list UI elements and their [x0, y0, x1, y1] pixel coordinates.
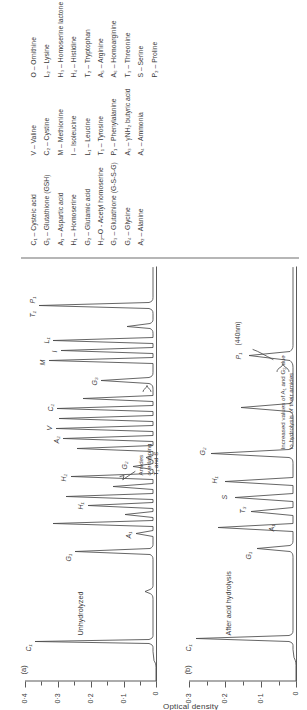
legend-column-3: O – Ornithine L₂ – Lysine H₃ – Homoserin… — [27, 1, 161, 77]
legend-item: T₂ – Tryptophan — [81, 1, 94, 77]
figure-stage: Optical density 0·4 0·3 0·2 0·1 0 (a) Un… — [13, 0, 307, 707]
legend-item: A₆ – Homoarginine — [107, 1, 120, 77]
legend-item: G₄ – Glycine — [121, 162, 134, 245]
legend-item: C₂ – Cystine — [40, 88, 53, 155]
legend-item: S – Serine — [134, 1, 147, 77]
legend-item: V – Valine — [27, 88, 40, 155]
legend-item: H₂–O - Acetyl homoserine — [94, 162, 107, 245]
legend-item: G₂ – Glutamic acid — [81, 162, 94, 245]
legend-item: I – Isoleucine — [67, 88, 80, 155]
legend-item: L₂ – Lysine — [40, 1, 53, 77]
legend-item: T₁ – Tyrosine — [94, 88, 107, 155]
legend-column-1: C₁ – Cysteic acid G₁ – Glutathione (GSH)… — [27, 162, 148, 245]
legend-item: A₂ – Alanine — [134, 162, 147, 245]
legend-column-2: V – Valine C₂ – Cystine M – Methionine I… — [27, 88, 148, 155]
legend-item: P₁ – Phenylalanine — [107, 88, 120, 155]
legend-item: M – Methionine — [54, 88, 67, 155]
chromatogram-figure: Optical density 0·4 0·3 0·2 0·1 0 (a) Un… — [13, 0, 307, 707]
legend-item: T₃ – Threonine — [121, 1, 134, 77]
legend-item: P₂ – Proline — [148, 1, 161, 77]
legend-divider — [21, 257, 299, 258]
legend-item: H₄ – Histidine — [67, 1, 80, 77]
legend-item: A₄ – Ammonia — [134, 88, 147, 155]
legend-item: G₃ – Glutathione (G-S-S-G) — [107, 162, 120, 245]
legend-item: H₃ – Homoserine lactone — [54, 1, 67, 77]
legend-item: A₃ – γNH₂ butyric acid — [121, 88, 134, 155]
legend-item: G₁ – Glutathione (GSH) — [40, 162, 53, 245]
legend-item: O – Ornithine — [27, 1, 40, 77]
legend-item: A₅ – Arginine — [94, 1, 107, 77]
legend-item: A₁ – Aspartic acid — [54, 162, 67, 245]
legend-item: C₁ – Cysteic acid — [27, 162, 40, 245]
legend-item: H₁ – Homoserine — [67, 162, 80, 245]
legend-item: L₁ – Leucine — [81, 88, 94, 155]
